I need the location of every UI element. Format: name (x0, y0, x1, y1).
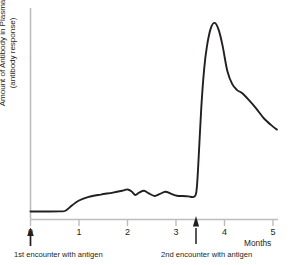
antibody-response-chart: Amount of Antibody in Plasma (antibody r… (0, 0, 290, 265)
antibody-response-curve (31, 23, 277, 212)
x-tick-label-5: 5 (265, 227, 281, 237)
second-encounter-annotation: 2nd encounter with antigen (161, 250, 252, 259)
x-axis-title: Months (244, 238, 271, 248)
x-tick-label-0: 0 (23, 227, 39, 237)
x-tick-label-2: 2 (120, 227, 136, 237)
x-axis-ticks (31, 220, 274, 227)
first-encounter-annotation: 1st encounter with antigen (14, 250, 103, 259)
chart-canvas (0, 0, 290, 265)
x-tick-label-3: 3 (168, 227, 184, 237)
x-tick-label-1: 1 (71, 227, 87, 237)
x-tick-label-4: 4 (217, 227, 233, 237)
